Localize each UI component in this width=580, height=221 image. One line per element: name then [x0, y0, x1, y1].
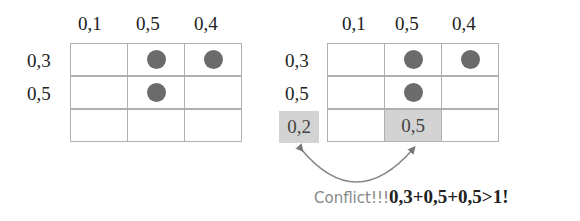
conflict-formula: 0,3+0,5+0,5>1! — [389, 186, 509, 207]
conflict-prefix: Conflict!!! — [314, 189, 389, 207]
conflict-caption: Conflict!!!0,3+0,5+0,5>1! — [314, 186, 509, 208]
